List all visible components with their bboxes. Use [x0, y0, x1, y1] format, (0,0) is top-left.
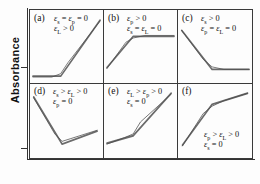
panel-b-condition-1: εp > 0: [127, 14, 161, 24]
panel-b-conditions: εp > 0 εs = εL = 0: [127, 14, 161, 34]
y-axis-label: Absorbance: [9, 20, 25, 120]
panel-c-thin-trace: [182, 30, 249, 69]
panel-c-conditions: εs > 0 εp = εL = 0: [201, 14, 236, 34]
y-axis-line: [27, 8, 28, 160]
panel-c-condition-1: εs > 0: [201, 14, 236, 24]
figure-absorbance-panels: Absorbance (a) εs = εp = 0 εL > 0 (b) εp…: [0, 0, 260, 184]
panel-e-tag: (e): [108, 87, 119, 97]
panel-c-thick-trace: [182, 30, 249, 69]
panel-b-condition-2: εs = εL = 0: [127, 24, 161, 34]
panel-d: (d) εs > εL > 0 εp = 0: [30, 84, 104, 158]
panel-c: (c) εs > 0 εp = εL = 0: [178, 10, 252, 84]
panel-f-conditions: εp > εL > 0 εs = 0: [204, 130, 239, 150]
panel-grid: (a) εs = εp = 0 εL > 0 (b) εp > 0 εs = ε…: [29, 9, 253, 159]
panel-a-conditions: εs = εp = 0 εL > 0: [54, 14, 88, 34]
panel-e-condition-2: εs = 0: [127, 97, 162, 107]
panel-f-condition-1: εp > εL > 0: [204, 130, 239, 140]
panel-a-condition-2: εL > 0: [54, 24, 88, 34]
panel-d-conditions: εs > εL > 0 εp = 0: [53, 87, 87, 107]
panel-d-condition-2: εp = 0: [53, 97, 87, 107]
panel-a-tag: (a): [34, 14, 45, 24]
panel-c-condition-2: εp = εL = 0: [201, 24, 236, 34]
y-axis-tick-row1: [21, 67, 28, 68]
panel-e: (e) εL > εp > 0 εs = 0: [104, 84, 178, 158]
panel-c-tag: (c): [182, 14, 193, 24]
panel-d-condition-1: εs > εL > 0: [53, 87, 87, 97]
panel-e-condition-1: εL > εp > 0: [127, 87, 162, 97]
panel-f-tag: (f): [182, 87, 192, 97]
panel-a-condition-1: εs = εp = 0: [54, 14, 88, 24]
panel-b: (b) εp > 0 εs = εL = 0: [104, 10, 178, 84]
panel-a: (a) εs = εp = 0 εL > 0: [30, 10, 104, 84]
panel-b-tag: (b): [108, 14, 119, 24]
panel-b-thick-trace: [107, 36, 174, 67]
y-axis-tick-row2: [21, 148, 28, 149]
panel-b-thin-trace: [107, 35, 174, 68]
panel-f: (f) εp > εL > 0 εs = 0: [178, 84, 252, 158]
x-axis-line: [27, 159, 255, 160]
panel-d-tag: (d): [34, 87, 45, 97]
panel-e-conditions: εL > εp > 0 εs = 0: [127, 87, 162, 107]
panel-f-condition-2: εs = 0: [204, 140, 239, 150]
